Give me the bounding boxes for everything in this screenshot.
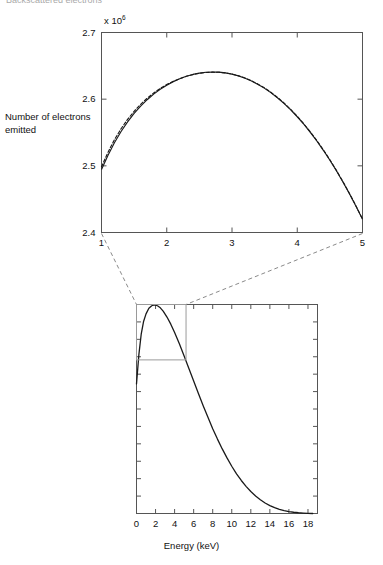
y-axis-exponent-label: x 106: [104, 15, 126, 26]
bottom-x-tick-label: 0: [129, 518, 145, 529]
bottom-curve-spectrum: [137, 305, 313, 514]
figure-container: x 106 Number of electrons emitted Energy…: [0, 0, 383, 565]
bottom-x-tick-label: 4: [167, 518, 183, 529]
right-connector-line: [186, 234, 362, 305]
bottom-x-tick-label: 14: [262, 518, 278, 529]
top-x-tick-label: 5: [355, 237, 371, 248]
bottom-x-tick-label: 2: [148, 518, 164, 529]
bottom-x-tick-label: 8: [205, 518, 221, 529]
top-y-tick-label: 2.7: [70, 27, 96, 38]
inset-highlight-box: [137, 305, 187, 360]
bottom-x-tick-label: 18: [300, 518, 316, 529]
top-y-tick-label: 2.5: [70, 160, 96, 171]
bottom-panel-frame: [137, 305, 318, 514]
bottom-x-tick-label: 6: [186, 518, 202, 529]
top-y-tick-label: 2.4: [70, 227, 96, 238]
top-y-tick-label: 2.6: [70, 93, 96, 104]
top-curve-measured: [102, 72, 363, 219]
top-x-tick-label: 4: [289, 237, 305, 248]
figure-canvas: [0, 0, 383, 565]
bottom-x-tick-label: 12: [243, 518, 259, 529]
top-x-tick-label: 1: [94, 237, 110, 248]
bottom-x-tick-label: 16: [281, 518, 297, 529]
y-axis-title: Number of electrons emitted: [5, 111, 97, 136]
x-axis-title: Energy (keV): [0, 540, 383, 551]
top-x-tick-label: 2: [159, 237, 175, 248]
top-x-tick-label: 3: [224, 237, 240, 248]
bottom-x-tick-label: 10: [224, 518, 240, 529]
top-curve-model: [102, 72, 363, 219]
top-panel-frame: [102, 33, 363, 233]
